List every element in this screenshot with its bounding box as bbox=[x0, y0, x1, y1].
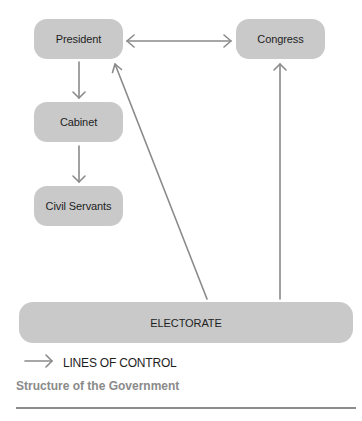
node-president: President bbox=[34, 19, 123, 59]
node-electorate-label: ELECTORATE bbox=[150, 317, 221, 329]
divider-rule bbox=[16, 407, 356, 409]
arrow-right-icon bbox=[22, 353, 54, 373]
node-electorate: ELECTORATE bbox=[19, 302, 353, 343]
legend-label: LINES OF CONTROL bbox=[63, 356, 176, 370]
node-civil-servants-label: Civil Servants bbox=[46, 200, 112, 212]
electorate-congress-arrow bbox=[274, 64, 286, 299]
node-cabinet-label: Cabinet bbox=[60, 116, 97, 128]
node-congress-label: Congress bbox=[257, 33, 303, 45]
president-congress-arrow bbox=[127, 35, 231, 47]
node-congress: Congress bbox=[236, 19, 325, 59]
electorate-president-arrow bbox=[113, 64, 208, 299]
node-cabinet: Cabinet bbox=[34, 102, 123, 142]
cabinet-civil-servants-arrow bbox=[73, 146, 85, 182]
node-president-label: President bbox=[56, 33, 102, 45]
president-cabinet-arrow bbox=[73, 62, 85, 98]
figure-caption: Structure of the Government bbox=[16, 379, 179, 393]
node-civil-servants: Civil Servants bbox=[34, 186, 123, 226]
legend: LINES OF CONTROL bbox=[22, 353, 176, 373]
